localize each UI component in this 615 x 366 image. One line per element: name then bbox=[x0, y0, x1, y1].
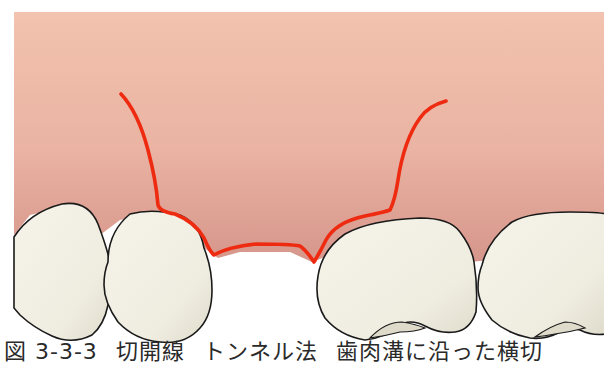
figure-caption: 図 3-3-3 切開線 トンネル法 歯肉溝に沿った横切 bbox=[4, 337, 615, 366]
caption-part-c: 歯肉溝に沿った横切 bbox=[336, 339, 543, 364]
caption-part-a: 切開線 bbox=[116, 339, 185, 364]
tooth-3 bbox=[317, 218, 477, 340]
caption-figure-number: 図 3-3-3 bbox=[4, 339, 98, 364]
caption-part-b: トンネル法 bbox=[203, 339, 318, 364]
tooth-2 bbox=[104, 211, 212, 342]
tooth-1 bbox=[14, 203, 111, 340]
